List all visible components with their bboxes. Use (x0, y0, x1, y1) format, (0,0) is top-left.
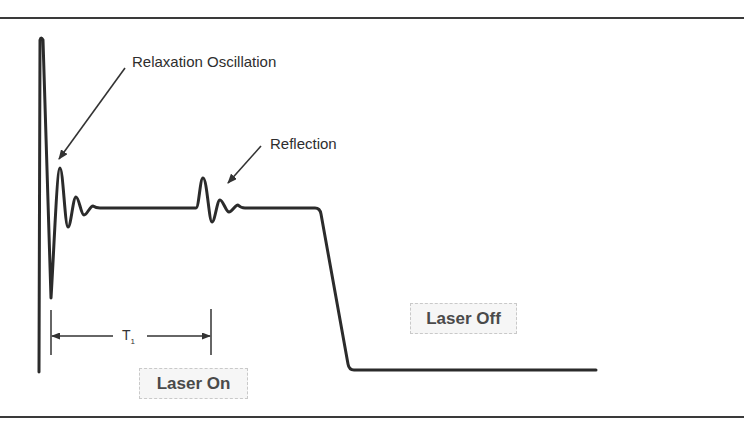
interval-subscript: 1 (131, 337, 135, 346)
relaxation-oscillation-label: Relaxation Oscillation (132, 53, 276, 70)
laser-off-label: Laser Off (410, 303, 517, 334)
interval-t-symbol: T (122, 327, 131, 343)
laser-on-label: Laser On (139, 368, 248, 399)
relaxation-arrow (59, 68, 125, 159)
reflection-label: Reflection (270, 135, 337, 152)
reflection-arrow (228, 146, 261, 183)
waveform-diagram (0, 0, 744, 429)
interval-t1-label: T1 (122, 327, 135, 346)
